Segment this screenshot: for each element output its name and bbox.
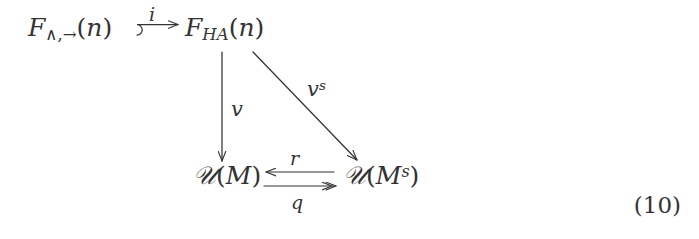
node-source-base: F <box>28 13 45 42</box>
node-u-m-paren-close: ) <box>251 161 261 190</box>
arrow-label-i: i <box>149 5 155 24</box>
node-u-m-s-paren-open: ( <box>366 161 376 190</box>
arrow-label-vs: vs <box>307 79 326 100</box>
node-source: F∧,→(n) <box>28 15 112 44</box>
node-middle-base: F <box>185 13 202 42</box>
node-u-m-s: 𝒰(Ms) <box>343 163 419 188</box>
node-u-m-paren-open: ( <box>216 161 226 190</box>
arrow-label-v: v <box>231 99 243 120</box>
arrow-vs <box>253 52 357 160</box>
node-source-subscript: ∧,→ <box>45 25 76 44</box>
arrow-label-vs-superscript: s <box>319 78 326 93</box>
node-source-arg: n <box>86 13 102 42</box>
arrow-label-q: q <box>291 193 303 212</box>
node-u-m-base: 𝒰 <box>193 161 216 190</box>
node-middle-subscript: HA <box>202 25 228 44</box>
node-u-m-arg: M <box>226 161 252 190</box>
node-u-m-s-paren-close: ) <box>410 161 420 190</box>
node-u-m-s-base: 𝒰 <box>343 161 366 190</box>
node-middle-arg: n <box>238 13 254 42</box>
equation-figure: F∧,→(n) FHA(n) 𝒰(M) 𝒰(Ms) i v vs r q (10… <box>0 0 699 239</box>
node-middle: FHA(n) <box>185 15 264 44</box>
node-u-m-s-arg: M <box>376 161 402 190</box>
node-source-paren-open: ( <box>77 13 87 42</box>
node-u-m-s-superscript: s <box>401 162 409 181</box>
node-source-paren-close: ) <box>102 13 112 42</box>
node-middle-paren-open: ( <box>229 13 239 42</box>
node-u-m: 𝒰(M) <box>193 163 261 188</box>
node-middle-paren-close: ) <box>255 13 265 42</box>
arrow-i <box>137 25 178 35</box>
arrow-label-r: r <box>290 149 299 168</box>
arrow-label-vs-base: v <box>307 77 319 101</box>
equation-number: (10) <box>634 192 681 218</box>
